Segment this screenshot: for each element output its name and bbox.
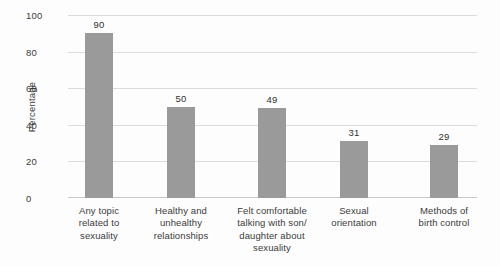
bar-value-label-2: 49 (247, 94, 297, 105)
bar-value-label-3: 31 (329, 127, 379, 138)
bar-any-topic-related-to-sexuality[interactable] (85, 33, 113, 198)
x-axis-label-4-line-1: birth control (396, 217, 492, 229)
y-tick-label-20: 20 (26, 156, 62, 167)
y-tick-label-80: 80 (26, 46, 62, 57)
y-tick-label-40: 40 (26, 119, 62, 130)
bar-felt-comfortable-talking[interactable] (258, 108, 286, 198)
x-axis-label-3-line-0: Sexual (306, 205, 402, 217)
y-tick-label-100: 100 (26, 10, 62, 21)
x-axis-label-1: Healthy and unhealthy relationships (133, 205, 229, 242)
x-axis-label-1-line-2: relationships (133, 230, 229, 242)
bar-methods-of-birth-control[interactable] (430, 145, 458, 198)
x-axis-label-1-line-1: unhealthy (133, 217, 229, 229)
gridline-100 (68, 15, 477, 16)
bar-value-label-4: 29 (419, 131, 469, 142)
x-axis-label-4: Methods of birth control (396, 205, 492, 230)
gridline-80 (68, 52, 477, 53)
bar-value-label-1: 50 (156, 93, 206, 104)
y-axis-tick-labels: 100 80 60 40 20 0 (26, 15, 62, 198)
x-axis-label-2-line-2: daughter about (224, 230, 320, 242)
x-axis-label-4-line-0: Methods of (396, 205, 492, 217)
x-axis-label-3-line-1: orientation (306, 217, 402, 229)
bar-sexual-orientation[interactable] (340, 141, 368, 198)
y-tick-label-60: 60 (26, 83, 62, 94)
y-tick-label-0: 0 (26, 193, 62, 204)
bar-value-label-0: 90 (74, 19, 124, 30)
bar-healthy-and-unhealthy-relationships[interactable] (167, 107, 195, 199)
bar-chart: Percentage 100 80 60 40 20 0 90 50 49 31… (0, 0, 500, 266)
plot-area: 90 50 49 31 29 (68, 15, 477, 198)
x-axis-label-1-line-0: Healthy and (133, 205, 229, 217)
gridline-60 (68, 88, 477, 89)
x-axis-label-3: Sexual orientation (306, 205, 402, 230)
x-axis-label-2-line-3: sexuality (224, 242, 320, 254)
